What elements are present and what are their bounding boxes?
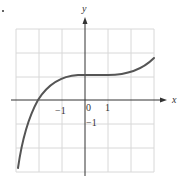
y-axis-arrow-icon (83, 17, 88, 24)
x-axis-arrow-icon (160, 98, 167, 103)
origin-label: 0 (86, 102, 91, 113)
x-tick-label-1: 1 (105, 102, 110, 113)
cubic-function-graph: x y −1 0 1 −1 (0, 0, 177, 176)
y-axis-label: y (81, 3, 87, 14)
item-bullet (2, 10, 4, 12)
function-curve (18, 58, 154, 168)
x-axis-label: x (171, 94, 177, 105)
plot-area: x y −1 0 1 −1 (0, 0, 177, 176)
y-tick-label-neg1: −1 (86, 117, 97, 128)
axes (11, 22, 162, 176)
x-tick-label-neg1: −1 (55, 105, 66, 116)
